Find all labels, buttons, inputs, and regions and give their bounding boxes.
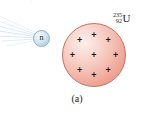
proton-charge-symbol: + [70,51,75,60]
neutron: n [33,30,50,47]
proton-charge-symbol: + [113,51,118,60]
isotope-label: 235 92 U [113,8,130,26]
isotope-numbers: 235 92 [113,12,122,24]
neutron-label: n [40,34,44,42]
proton-charge-symbol: + [91,71,96,80]
proton-charge-symbol: + [106,36,111,45]
isotope-atomic-number: 92 [113,18,122,24]
proton-charge-symbol: + [91,30,96,39]
crop-remnant-right: · [112,0,113,4]
proton-charge-symbol: + [77,65,82,74]
isotope-element-symbol: U [123,13,131,24]
crop-remnant-left: ·· [30,0,33,4]
nuclear-fission-figure-a: ·· · · n +++++++++ 235 92 U (a) [0,0,154,115]
uranium-nucleus: +++++++++ [62,23,126,87]
proton-charge-symbol: + [91,51,96,60]
motion-trail-icon [0,14,58,52]
crop-remnant-center: · [78,0,79,4]
proton-charge-symbol: + [77,36,82,45]
proton-charge-symbol: + [106,65,111,74]
figure-caption: (a) [0,93,154,105]
